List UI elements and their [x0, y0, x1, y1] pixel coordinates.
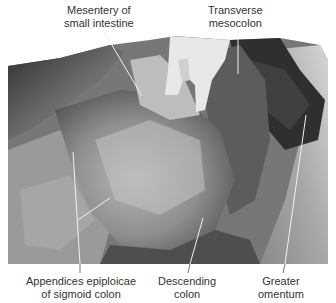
label-line: Greater: [258, 275, 304, 288]
label-descending-colon: Descending colon: [158, 275, 216, 300]
label-line: colon: [158, 288, 216, 301]
label-transverse-mesocolon: Transverse mesocolon: [208, 4, 263, 29]
label-line: mesocolon: [208, 17, 263, 30]
label-line: omentum: [258, 288, 304, 301]
label-mesentery-of-small-intestine: Mesentery of small intestine: [64, 4, 134, 29]
label-greater-omentum: Greater omentum: [258, 275, 304, 300]
dissection-photo: [0, 0, 336, 303]
label-line: Transverse: [208, 4, 263, 17]
label-line: Descending: [158, 275, 216, 288]
label-line: Mesentery of: [64, 4, 134, 17]
label-appendices-epiploicae: Appendices epiploicae of sigmoid colon: [26, 275, 136, 300]
label-line: small intestine: [64, 17, 134, 30]
label-line: Appendices epiploicae: [26, 275, 136, 288]
label-line: of sigmoid colon: [26, 288, 136, 301]
